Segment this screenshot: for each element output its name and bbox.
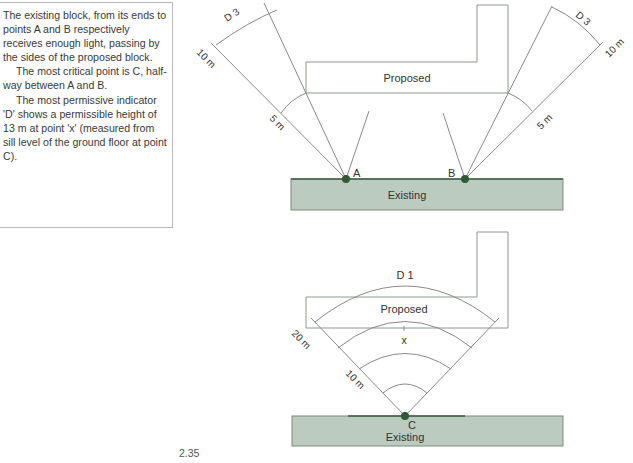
bottom-inner-distance: 10 m	[344, 368, 368, 392]
bottom-existing-label: Existing	[386, 431, 425, 443]
point-a-label: A	[353, 167, 361, 179]
top-proposed-label: Proposed	[383, 72, 430, 84]
left-fan-inner-distance: 5 m	[268, 113, 288, 133]
top-existing-block	[291, 179, 563, 210]
right-fan-inner-distance: 5 m	[535, 112, 555, 132]
point-c-label: C	[408, 419, 416, 431]
right-fan-indicator: D 3	[574, 9, 593, 28]
left-fan-outer-distance: 10 m	[195, 47, 219, 71]
top-diagram: Proposed Existing D 3 10 m 5 m D 3 10 m …	[195, 3, 627, 210]
bottom-diagram: Proposed D 1 x 20 m 10 m C Existing	[290, 232, 563, 446]
top-existing-label: Existing	[388, 189, 427, 201]
point-x-label: x	[401, 334, 407, 346]
right-fan-outer-distance: 10 m	[603, 36, 627, 60]
left-fan-indicator: D 3	[222, 6, 241, 24]
left-fan	[211, 3, 369, 179]
daylight-diagram: Proposed Existing D 3 10 m 5 m D 3 10 m …	[0, 0, 633, 463]
point-b-marker	[461, 175, 469, 183]
bottom-fan-indicator: D 1	[396, 269, 413, 281]
bottom-outer-distance: 20 m	[290, 328, 314, 352]
figure-number: 2.35	[179, 447, 199, 459]
bottom-existing-block	[292, 416, 563, 446]
bottom-proposed-label: Proposed	[380, 303, 427, 315]
point-a-marker	[342, 175, 350, 183]
point-b-label: B	[448, 167, 455, 179]
